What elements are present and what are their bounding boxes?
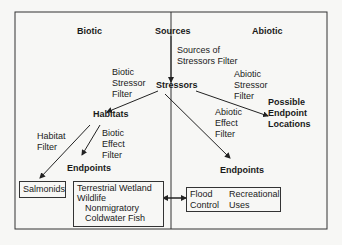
biotic-endpoints-box: Terrestrial Wetland Wildlife Nonmigrator… [73, 181, 164, 227]
salmonids-box: Salmonids [19, 181, 66, 198]
abiotic-endpoints-box: Flood Control Recreational Uses [186, 187, 281, 212]
header-abiotic: Abiotic [252, 26, 283, 37]
node-possible-endpoint-locations: Possible Endpoint Locations [268, 97, 311, 130]
node-endpoints-biotic: Endpoints [67, 163, 111, 174]
node-endpoints-abiotic: Endpoints [220, 165, 264, 176]
node-stressors: Stressors [156, 80, 198, 91]
header-sources: Sources [155, 26, 191, 37]
abiotic-effect-filter: Abiotic Effect Filter [215, 107, 242, 140]
abiotic-stressor-filter: Abiotic Stressor Filter [234, 69, 268, 102]
node-habitats: Habitats [93, 109, 129, 120]
biotic-effect-filter: Biotic Effect Filter [102, 128, 125, 161]
sources-of-stressors-filter: Sources of Stressors Filter [177, 45, 238, 67]
habitat-filter: Habitat Filter [37, 131, 66, 153]
header-biotic: Biotic [77, 26, 102, 37]
biotic-stressor-filter: Biotic Stressor Filter [112, 67, 146, 100]
